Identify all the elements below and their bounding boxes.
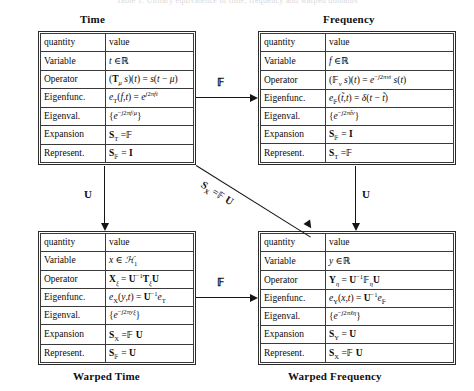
- row-key-operator: Operator: [261, 271, 326, 290]
- table-row: Expansion ST =𝔽: [41, 125, 194, 144]
- row-value-eigenval: {e−j2πf/μ}: [106, 107, 194, 125]
- row-key-expansion: Expansion: [261, 326, 326, 344]
- row-key-eigenval: Eigenval.: [41, 107, 106, 125]
- header-value: value: [326, 34, 454, 52]
- row-key-eigenfunc: Eigenfunc.: [41, 288, 106, 306]
- row-value-eigenfunc: e𝔽(t̃,t) = δ(t − t̃): [326, 90, 454, 108]
- table-time: quantity value Variable t ∈ℝ Operator (T…: [38, 31, 196, 165]
- row-key-variable: Variable: [261, 252, 326, 271]
- table-row: Operator Xξ = U−1TξU: [41, 270, 194, 288]
- row-value-operator: Xξ = U−1TξU: [106, 270, 194, 288]
- arrow-diagonal-shaft: [196, 165, 311, 238]
- row-value-eigenfunc: eT(f,t) = ej2πft: [106, 89, 194, 107]
- table-row: Eigenfunc. eY(x,t) = U−1e𝔽: [261, 290, 454, 308]
- table-warped-time: quantity value Variable x ∈ ℋ1 Operator …: [38, 231, 196, 365]
- row-key-expansion: Expansion: [261, 126, 326, 144]
- row-key-operator: Operator: [41, 270, 106, 288]
- row-key-eigenfunc: Eigenfunc.: [261, 90, 326, 108]
- row-key-operator: Operator: [41, 71, 106, 89]
- row-key-variable: Variable: [261, 52, 326, 71]
- table-row: Eigenfunc. e𝔽(t̃,t) = δ(t − t̃): [261, 90, 454, 108]
- arrow-label-top-horizontal: 𝔽: [217, 76, 224, 89]
- table-row: Expansion S𝔽 = I: [261, 126, 454, 144]
- header-quantity: quantity: [41, 34, 106, 52]
- arrow-label-left-vertical: U: [84, 188, 92, 200]
- table-row: Eigenval. {e−j2πx̃η}: [261, 308, 454, 326]
- table-row: Represent. S𝔽 = U: [41, 344, 194, 362]
- row-value-eigenfunc: eY(x,t) = U−1e𝔽: [326, 290, 454, 308]
- row-value-expansion: ST =𝔽: [106, 125, 194, 144]
- header-value: value: [106, 34, 194, 52]
- table-warped-frequency: quantity value Variable y ∈ℝ Operator Yη…: [258, 231, 456, 365]
- table-row: Operator (𝔽ν s)(t) = e−j2πνt s(t): [261, 71, 454, 90]
- table-row: Represent. SX =𝔽 U: [261, 344, 454, 363]
- panel-title-warped-time: Warped Time: [73, 370, 140, 382]
- arrow-label-right-vertical: U: [362, 188, 370, 200]
- arrow-top-horizontal-shaft: [196, 97, 250, 98]
- panel-title-time: Time: [80, 13, 105, 25]
- table-row: Eigenfunc. eX(y,t) = U−1eT: [41, 288, 194, 306]
- row-key-represent: Represent.: [261, 344, 326, 363]
- table-row: Eigenfunc. eT(f,t) = ej2πft: [41, 89, 194, 107]
- table-header-row: quantity value: [41, 234, 194, 252]
- row-value-represent: ST =𝔽: [326, 144, 454, 163]
- row-key-variable: Variable: [41, 52, 106, 71]
- header-value: value: [326, 234, 454, 252]
- table-row: Expansion SX =𝔽 U: [41, 325, 194, 344]
- row-key-represent: Represent.: [261, 144, 326, 163]
- table-header-row: quantity value: [261, 34, 454, 52]
- table-frequency: quantity value Variable f ∈ℝ Operator (𝔽…: [258, 31, 456, 165]
- row-key-represent: Represent.: [41, 144, 106, 162]
- row-value-represent: S𝔽 = U: [106, 344, 194, 362]
- row-key-represent: Represent.: [41, 344, 106, 362]
- arrow-right-vertical-shaft: [355, 166, 356, 224]
- table-row: Represent. S𝔽 = I: [41, 144, 194, 162]
- row-key-expansion: Expansion: [41, 325, 106, 344]
- table-row: Variable x ∈ ℋ1: [41, 252, 194, 270]
- row-value-variable: x ∈ ℋ1: [106, 252, 194, 270]
- row-value-represent: S𝔽 = I: [106, 144, 194, 162]
- table-row: Eigenval. {e−j2πt̃ν}: [261, 108, 454, 126]
- arrow-diagonal-head: [303, 219, 314, 230]
- row-value-operator: Yη = U−1𝔽ηU: [326, 271, 454, 290]
- table-header-row: quantity value: [41, 34, 194, 52]
- table-row: Operator Yη = U−1𝔽ηU: [261, 271, 454, 290]
- header-quantity: quantity: [41, 234, 106, 252]
- row-value-represent: SX =𝔽 U: [326, 344, 454, 363]
- table-header-row: quantity value: [261, 234, 454, 252]
- arrow-top-horizontal-head: [250, 94, 258, 102]
- table-row: Eigenval. {e−j2πf/μ}: [41, 107, 194, 125]
- row-key-eigenval: Eigenval.: [261, 108, 326, 126]
- diagram-canvas: Table 1. Unitary equivalence of time, fr…: [0, 0, 474, 391]
- row-value-expansion: SY = U: [326, 326, 454, 344]
- row-value-variable: f ∈ℝ: [326, 52, 454, 71]
- header-quantity: quantity: [261, 234, 326, 252]
- row-key-eigenfunc: Eigenfunc.: [261, 290, 326, 308]
- arrow-label-diagonal: SX =𝔽 U: [199, 179, 235, 207]
- panel-title-frequency: Frequency: [323, 13, 375, 25]
- row-key-eigenfunc: Eigenfunc.: [41, 89, 106, 107]
- table-row: Variable t ∈ℝ: [41, 52, 194, 71]
- row-key-variable: Variable: [41, 252, 106, 270]
- arrow-label-bottom-horizontal: 𝔽: [217, 276, 224, 289]
- row-value-eigenval: {e−j2πx̃η}: [326, 308, 454, 326]
- table-row: Variable y ∈ℝ: [261, 252, 454, 271]
- table-row: Operator (Tμ s)(t) = s(t − μ): [41, 71, 194, 89]
- row-key-operator: Operator: [261, 71, 326, 90]
- arrow-left-vertical-shaft: [104, 166, 105, 224]
- arrow-left-vertical-head: [101, 223, 109, 231]
- row-value-operator: (Tμ s)(t) = s(t − μ): [106, 71, 194, 89]
- arrow-bottom-horizontal-head: [250, 294, 258, 302]
- row-value-eigenval: {e−j2πt̃ν}: [326, 108, 454, 126]
- arrow-bottom-horizontal-shaft: [196, 297, 250, 298]
- row-value-variable: t ∈ℝ: [106, 52, 194, 71]
- row-value-eigenval: {e−j2πyξ}: [106, 307, 194, 325]
- caption-remnant: Table 1. Unitary equivalence of time, fr…: [0, 0, 474, 6]
- header-value: value: [106, 234, 194, 252]
- header-quantity: quantity: [261, 34, 326, 52]
- row-key-expansion: Expansion: [41, 125, 106, 144]
- row-key-eigenval: Eigenval.: [261, 308, 326, 326]
- table-row: Expansion SY = U: [261, 326, 454, 344]
- row-value-variable: y ∈ℝ: [326, 252, 454, 271]
- panel-title-warped-frequency: Warped Frequency: [288, 370, 382, 382]
